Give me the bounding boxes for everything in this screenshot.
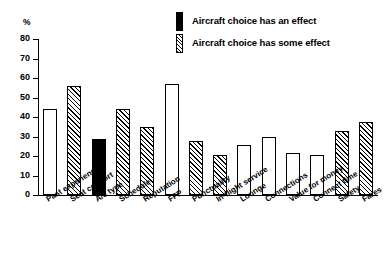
bar — [43, 109, 57, 195]
y-axis-tick-label: 60 — [0, 73, 30, 82]
y-axis-tick-label: 10 — [0, 171, 30, 180]
bar — [359, 122, 373, 195]
y-axis-tick-label: 30 — [0, 132, 30, 141]
y-axis-tick-label: 70 — [0, 54, 30, 63]
y-axis-tick-label: 20 — [0, 151, 30, 160]
legend-item-an-effect: Aircraft choice has an effect — [176, 10, 386, 32]
legend-label-an-effect: Aircraft choice has an effect — [192, 16, 316, 26]
y-axis-tick-label: 40 — [0, 112, 30, 121]
legend-swatch-solid-icon — [176, 12, 183, 31]
y-axis-tick-label: 80 — [0, 34, 30, 43]
bar — [189, 141, 203, 195]
y-axis-unit-label: % — [23, 17, 31, 27]
y-axis-tick-label: 0 — [0, 190, 30, 199]
y-axis-tick — [33, 195, 38, 196]
bar-chart: Aircraft choice has an effect Aircraft c… — [0, 0, 389, 253]
y-axis-tick-label: 50 — [0, 93, 30, 102]
x-axis-labels: Past experienceSeat comfortA/c typeSched… — [38, 197, 378, 253]
